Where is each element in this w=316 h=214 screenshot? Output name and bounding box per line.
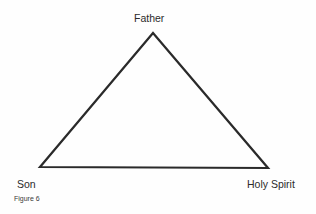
node-label-top: Father xyxy=(134,13,164,24)
node-label-bottom-left: Son xyxy=(17,179,36,190)
figure-caption: Figure 6 xyxy=(14,195,40,202)
node-label-bottom-right: Holy Spirit xyxy=(247,179,295,190)
figure-canvas: Father Son Holy Spirit Figure 6 xyxy=(0,0,316,214)
trinity-triangle xyxy=(40,33,268,168)
